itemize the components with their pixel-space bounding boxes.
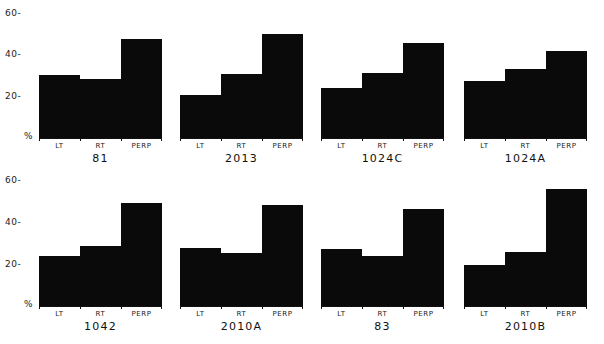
bar-group bbox=[464, 8, 587, 138]
bar-lt bbox=[180, 95, 221, 138]
panel-title: 1024C bbox=[321, 153, 444, 164]
category-label-perp: PERP bbox=[121, 143, 162, 150]
bar-rt bbox=[221, 253, 262, 306]
bar-group bbox=[180, 8, 303, 138]
x-axis-line bbox=[321, 306, 444, 307]
category-label-rt: RT bbox=[505, 143, 546, 150]
x-axis-tick bbox=[121, 306, 122, 309]
x-axis-tick bbox=[586, 138, 587, 141]
bar-perp bbox=[546, 189, 587, 306]
x-axis-tick bbox=[464, 138, 465, 141]
category-label-rt: RT bbox=[221, 311, 262, 318]
x-axis-tick bbox=[464, 306, 465, 309]
category-label-rt: RT bbox=[80, 311, 121, 318]
panel-title: 2010B bbox=[464, 321, 587, 332]
x-axis-tick bbox=[505, 306, 506, 309]
bar-group bbox=[180, 176, 303, 306]
panel-title: 83 bbox=[321, 321, 444, 332]
category-label-rt: RT bbox=[362, 311, 403, 318]
category-label-perp: PERP bbox=[403, 311, 444, 318]
x-axis-line bbox=[464, 138, 587, 139]
x-axis-tick bbox=[321, 138, 322, 141]
x-axis-line bbox=[180, 138, 303, 139]
category-label-lt: LT bbox=[180, 143, 221, 150]
bar-rt bbox=[362, 73, 403, 138]
bar-lt bbox=[39, 256, 80, 306]
bar-perp bbox=[121, 39, 162, 138]
bar-rt bbox=[505, 252, 546, 306]
x-axis-tick bbox=[262, 306, 263, 309]
category-label-perp: PERP bbox=[121, 311, 162, 318]
y-tick-40-top: 40- bbox=[5, 50, 21, 59]
bar-perp bbox=[262, 205, 303, 306]
x-axis-line bbox=[39, 138, 162, 139]
category-label-lt: LT bbox=[464, 143, 505, 150]
x-axis-line bbox=[180, 306, 303, 307]
y-tick-60-bottom: 60- bbox=[5, 176, 21, 185]
x-axis-tick bbox=[221, 306, 222, 309]
x-axis-line bbox=[321, 138, 444, 139]
x-axis-line bbox=[464, 306, 587, 307]
y-tick-20-top: 20- bbox=[5, 92, 21, 101]
bar-rt bbox=[221, 74, 262, 138]
bar-rt bbox=[80, 246, 121, 306]
x-axis-tick bbox=[443, 138, 444, 141]
x-axis-tick bbox=[39, 138, 40, 141]
bar-group bbox=[321, 176, 444, 306]
y-unit-percent-top: % bbox=[24, 132, 33, 141]
x-axis-line bbox=[39, 306, 162, 307]
y-tick-40-bottom: 40- bbox=[5, 218, 21, 227]
bar-perp bbox=[546, 51, 587, 138]
category-label-rt: RT bbox=[80, 143, 121, 150]
category-label-lt: LT bbox=[321, 143, 362, 150]
bar-lt bbox=[464, 81, 505, 138]
bar-lt bbox=[321, 88, 362, 138]
y-unit-percent-bottom: % bbox=[24, 300, 33, 309]
category-label-perp: PERP bbox=[546, 143, 587, 150]
x-axis-tick bbox=[121, 138, 122, 141]
x-axis-tick bbox=[362, 138, 363, 141]
y-tick-20-bottom: 20- bbox=[5, 260, 21, 269]
panel-title: 1042 bbox=[39, 321, 162, 332]
x-axis-tick bbox=[180, 306, 181, 309]
panel-title: 2010A bbox=[180, 321, 303, 332]
x-axis-tick bbox=[262, 138, 263, 141]
bar-rt bbox=[362, 256, 403, 306]
x-axis-tick bbox=[403, 306, 404, 309]
x-axis-tick bbox=[546, 306, 547, 309]
x-axis-tick bbox=[586, 306, 587, 309]
x-axis-tick bbox=[505, 138, 506, 141]
category-label-lt: LT bbox=[39, 311, 80, 318]
bar-lt bbox=[321, 249, 362, 306]
x-axis-tick bbox=[546, 138, 547, 141]
bar-rt bbox=[505, 69, 546, 138]
x-axis-tick bbox=[403, 138, 404, 141]
bar-group bbox=[39, 8, 162, 138]
x-axis-tick bbox=[39, 306, 40, 309]
panel-title: 2013 bbox=[180, 153, 303, 164]
y-tick-60-top: 60- bbox=[5, 9, 21, 18]
x-axis-tick bbox=[80, 138, 81, 141]
category-label-perp: PERP bbox=[546, 311, 587, 318]
x-axis-tick bbox=[443, 306, 444, 309]
bar-perp bbox=[403, 43, 444, 138]
x-axis-tick bbox=[321, 306, 322, 309]
bar-group bbox=[464, 176, 587, 306]
bar-group bbox=[39, 176, 162, 306]
bar-lt bbox=[180, 248, 221, 306]
category-label-lt: LT bbox=[321, 311, 362, 318]
x-axis-tick bbox=[302, 138, 303, 141]
panel-title: 1024A bbox=[464, 153, 587, 164]
bar-lt bbox=[39, 75, 80, 138]
x-axis-tick bbox=[161, 306, 162, 309]
category-label-perp: PERP bbox=[403, 143, 444, 150]
category-label-lt: LT bbox=[39, 143, 80, 150]
x-axis-tick bbox=[80, 306, 81, 309]
bar-perp bbox=[403, 209, 444, 306]
category-label-perp: PERP bbox=[262, 311, 303, 318]
category-label-rt: RT bbox=[362, 143, 403, 150]
x-axis-tick bbox=[362, 306, 363, 309]
x-axis-tick bbox=[180, 138, 181, 141]
bar-lt bbox=[464, 265, 505, 306]
category-label-rt: RT bbox=[221, 143, 262, 150]
